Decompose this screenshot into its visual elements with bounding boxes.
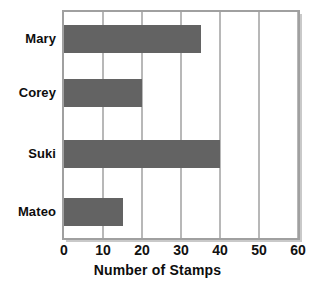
category-label-mateo: Mateo bbox=[0, 205, 56, 218]
category-label-mary: Mary bbox=[0, 32, 56, 45]
plot-inner bbox=[64, 12, 298, 238]
category-label-corey: Corey bbox=[0, 86, 56, 99]
bar-mary bbox=[64, 25, 201, 53]
bar-suki bbox=[64, 140, 220, 168]
category-label-suki: Suki bbox=[0, 147, 56, 160]
x-tick-60: 60 bbox=[290, 243, 306, 257]
x-axis-title: Number of Stamps bbox=[0, 263, 315, 277]
x-tick-0: 0 bbox=[60, 243, 68, 257]
x-tick-20: 20 bbox=[134, 243, 150, 257]
bar-chart: MaryCoreySukiMateo 0102030405060 Number … bbox=[0, 0, 315, 286]
x-tick-30: 30 bbox=[173, 243, 189, 257]
x-tick-10: 10 bbox=[95, 243, 111, 257]
gridline-40 bbox=[219, 12, 221, 238]
gridline-60 bbox=[297, 12, 298, 238]
category-axis-labels: MaryCoreySukiMateo bbox=[0, 10, 58, 240]
bar-corey bbox=[64, 79, 142, 107]
x-axis-tick-labels: 0102030405060 bbox=[62, 243, 300, 263]
bar-mateo bbox=[64, 198, 123, 226]
gridline-50 bbox=[258, 12, 260, 238]
x-tick-40: 40 bbox=[212, 243, 228, 257]
x-tick-50: 50 bbox=[251, 243, 267, 257]
plot-area bbox=[62, 10, 300, 240]
